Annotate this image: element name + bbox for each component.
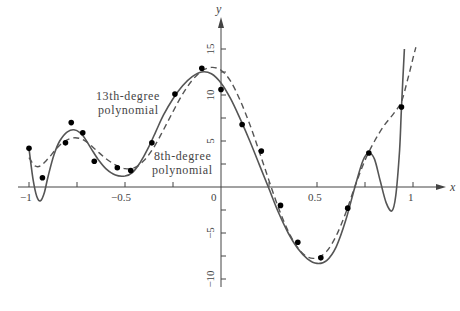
data-point — [172, 91, 178, 97]
x-tick-label: 0.5 — [308, 191, 322, 203]
y-tick-label: 5 — [204, 138, 216, 144]
y-tick-label: −5 — [204, 227, 216, 239]
annotation-8th-degree-line2: polynomial — [152, 163, 213, 177]
data-point — [115, 165, 121, 171]
data-point — [218, 87, 224, 93]
data-point — [318, 255, 324, 261]
data-point — [26, 146, 32, 152]
x-tick-label: −1 — [20, 191, 32, 203]
curve-8th-degree — [29, 47, 416, 258]
data-point — [68, 120, 74, 126]
annotation-8th-degree-line1: 8th-degree — [154, 149, 211, 163]
data-point — [128, 168, 134, 174]
data-point — [80, 130, 86, 136]
y-axis-arrow-icon — [218, 17, 224, 28]
annotation-13th-degree-line1: 13th-degree — [96, 89, 160, 103]
data-point — [239, 122, 245, 128]
annotation-13th-degree-line2: polynomial — [98, 103, 159, 117]
data-point — [278, 203, 284, 209]
y-tick-label: −10 — [204, 270, 216, 288]
x-axis-arrow-icon — [436, 184, 446, 190]
y-axis: y — [215, 2, 224, 287]
x-tick-label: 1 — [408, 191, 414, 203]
y-tick-label: 15 — [204, 43, 216, 55]
curve-13th-degree — [29, 49, 404, 263]
data-point — [149, 140, 155, 146]
polynomial-fit-chart: x y −1 −0.5 0 0.5 1 15 10 5 −5 −10 13th-… — [0, 0, 460, 311]
data-point — [399, 104, 405, 110]
data-point — [63, 140, 69, 146]
x-axis: x — [18, 180, 456, 194]
data-point — [91, 158, 97, 164]
x-tick-label: −0.5 — [111, 191, 131, 203]
data-point — [199, 66, 205, 72]
x-tick-label: 0 — [211, 191, 217, 203]
data-point — [345, 205, 351, 211]
data-point — [259, 148, 265, 154]
data-point — [40, 175, 46, 181]
y-tick-label: 10 — [204, 89, 216, 101]
x-axis-label: x — [449, 180, 456, 194]
y-axis-label: y — [215, 2, 222, 16]
data-point — [295, 239, 301, 245]
data-point — [366, 150, 372, 156]
